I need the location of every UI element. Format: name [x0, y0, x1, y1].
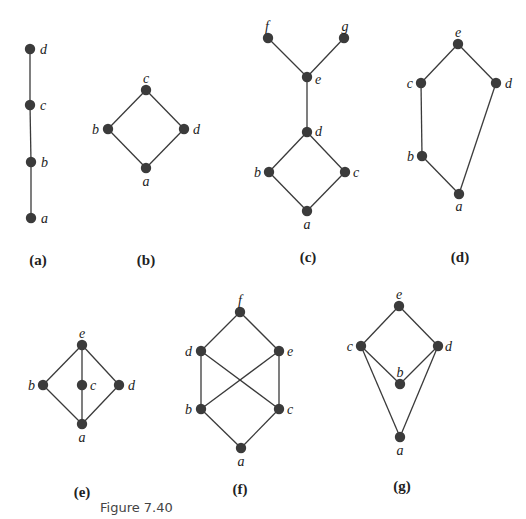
- node-a: [77, 419, 87, 429]
- edge-b-a: [108, 129, 146, 168]
- node-d: [196, 346, 206, 356]
- node-a: [236, 443, 246, 453]
- edge-b-a: [201, 409, 241, 448]
- node-c: [77, 380, 87, 390]
- panel-d: ecdba(d): [407, 25, 513, 266]
- node-label-a: a: [238, 454, 245, 469]
- node-c: [340, 167, 350, 177]
- node-label-f: f: [238, 293, 244, 308]
- node-label-c: c: [143, 71, 150, 86]
- node-label-b: b: [41, 155, 48, 170]
- node-label-f: f: [265, 19, 271, 34]
- panel-b: cbda(b): [92, 71, 201, 269]
- node-label-d: d: [193, 122, 201, 137]
- edge-f-d: [201, 312, 240, 351]
- edge-d-a: [459, 83, 496, 194]
- node-a: [395, 432, 405, 442]
- panel-label-g: (g): [393, 478, 411, 495]
- panel-label-c: (c): [300, 249, 317, 266]
- node-c: [416, 78, 426, 88]
- node-c: [356, 341, 366, 351]
- edge-e-d: [82, 345, 119, 385]
- node-b: [395, 379, 405, 389]
- panel-g: ecdba(g): [347, 287, 453, 495]
- edge-c-a: [361, 346, 400, 437]
- panel-label-f: (f): [233, 481, 248, 498]
- edge-e-d: [458, 44, 496, 83]
- node-c: [141, 85, 151, 95]
- hasse-diagrams-figure: dcba(a)cbda(b)fgedbca(c)ecdba(d)ebcda(e)…: [0, 0, 526, 519]
- edge-d-a: [400, 346, 438, 437]
- node-label-a: a: [397, 443, 404, 458]
- node-a: [26, 213, 36, 223]
- node-d: [433, 341, 443, 351]
- node-b: [196, 404, 206, 414]
- node-e: [274, 346, 284, 356]
- node-a: [141, 163, 151, 173]
- node-label-b: b: [397, 365, 404, 380]
- node-a: [302, 206, 312, 216]
- node-label-b: b: [407, 149, 414, 164]
- node-label-a: a: [41, 211, 48, 226]
- node-e: [77, 340, 87, 350]
- edge-c-a: [307, 172, 345, 211]
- panel-label-e: (e): [74, 484, 91, 501]
- node-label-d: d: [40, 42, 48, 57]
- edge-c-d: [146, 90, 184, 129]
- node-d: [302, 127, 312, 137]
- edge-d-b: [269, 132, 307, 172]
- node-label-c: c: [407, 76, 414, 91]
- node-e: [302, 72, 312, 82]
- node-label-c: c: [90, 378, 97, 393]
- node-b: [103, 124, 113, 134]
- node-d: [179, 124, 189, 134]
- panel-label-a: (a): [29, 252, 47, 269]
- node-b: [417, 151, 427, 161]
- node-label-c: c: [347, 339, 354, 354]
- node-b: [264, 167, 274, 177]
- node-label-d: d: [185, 344, 193, 359]
- panel-label-b: (b): [137, 252, 155, 269]
- node-label-d: d: [505, 76, 513, 91]
- node-label-e: e: [455, 25, 461, 40]
- node-f: [235, 307, 245, 317]
- edge-c-b: [30, 105, 31, 162]
- node-b: [38, 380, 48, 390]
- node-label-d: d: [128, 378, 136, 393]
- node-b: [26, 157, 36, 167]
- edge-f-e: [268, 38, 307, 77]
- edge-d-a: [146, 129, 184, 168]
- node-d: [114, 380, 124, 390]
- node-d: [491, 78, 501, 88]
- node-label-e: e: [79, 326, 85, 341]
- node-label-c: c: [40, 98, 47, 113]
- edge-b-a: [43, 385, 82, 424]
- edge-b-a: [269, 172, 307, 211]
- edge-e-c: [361, 306, 399, 346]
- node-label-a: a: [456, 199, 463, 214]
- node-label-e: e: [287, 344, 293, 359]
- node-label-d: d: [315, 124, 323, 139]
- edge-d-b: [400, 346, 438, 384]
- node-a: [454, 189, 464, 199]
- node-label-a: a: [143, 174, 150, 189]
- panel-label-d: (d): [451, 249, 469, 266]
- edge-c-b: [421, 83, 422, 156]
- figure-caption: Figure 7.40: [100, 500, 173, 515]
- node-label-e: e: [396, 287, 402, 302]
- panel-c: fgedbca(c): [254, 19, 360, 266]
- node-label-c: c: [353, 165, 360, 180]
- edge-c-b: [361, 346, 400, 384]
- panel-a: dcba(a): [25, 42, 48, 269]
- edge-g-e: [307, 38, 344, 77]
- panel-e: ebcda(e): [28, 326, 136, 501]
- node-label-c: c: [287, 402, 294, 417]
- node-f: [263, 33, 273, 43]
- edge-f-e: [240, 312, 279, 351]
- node-c: [274, 404, 284, 414]
- edge-e-b: [43, 345, 82, 385]
- panel-f: fdebca(f): [185, 293, 294, 498]
- edge-e-c: [421, 44, 458, 83]
- node-label-g: g: [342, 19, 349, 34]
- node-label-a: a: [304, 217, 311, 232]
